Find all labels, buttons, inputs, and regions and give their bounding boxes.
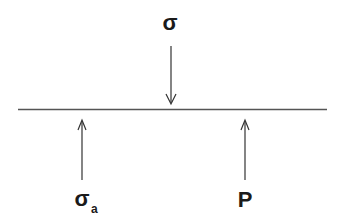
up-arrow-right-icon: [241, 120, 249, 180]
up-arrow-left-icon: [78, 120, 86, 180]
sigma-top-label: σ: [162, 10, 177, 35]
sigma-a-main: σ: [74, 186, 89, 211]
p-label: P: [238, 187, 253, 212]
sigma-a-subscript: a: [91, 202, 98, 216]
sigma-a-label: σ a: [74, 186, 98, 216]
force-diagram: σ σ a P: [0, 0, 339, 221]
down-arrow-icon: [166, 46, 176, 104]
